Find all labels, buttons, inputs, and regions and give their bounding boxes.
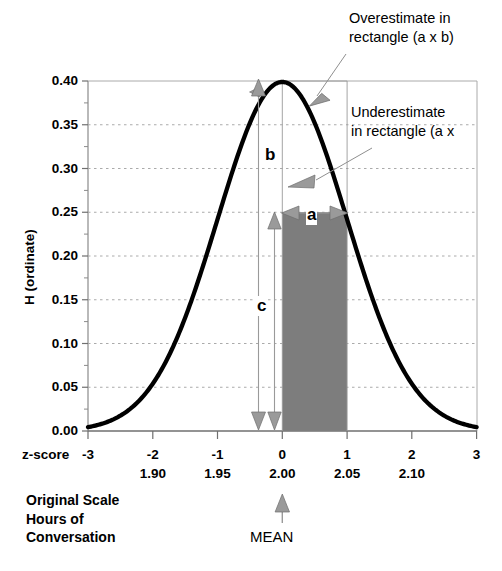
underestimate-callout-line1: Underestimate — [351, 103, 445, 122]
measure-label-b: b — [264, 145, 276, 165]
x-original-210: 2.10 — [388, 466, 436, 481]
measure-label-c: c — [256, 296, 267, 316]
x-tick-minus1: -1 — [198, 447, 238, 462]
y-tick-010: 0.10 — [34, 336, 78, 351]
measure-c — [268, 212, 281, 430]
x-original-200: 2.00 — [258, 466, 306, 481]
measure-b — [252, 79, 266, 430]
y-axis-ticks — [82, 81, 88, 431]
x-tick-minus3: -3 — [68, 447, 108, 462]
y-tick-040: 0.40 — [34, 73, 78, 88]
y-tick-005: 0.05 — [34, 379, 78, 394]
x-tick-0: 0 — [262, 447, 302, 462]
x-tick-1: 1 — [327, 447, 367, 462]
x-axis-caption-zscore: z-score — [22, 447, 69, 462]
x-axis-ticks — [88, 431, 477, 439]
measure-label-a: a — [306, 205, 317, 225]
y-tick-025: 0.25 — [34, 204, 78, 219]
overestimate-callout-line1: Overestimate in — [349, 9, 451, 28]
underestimate-callout-line2: in rectangle (a x — [351, 122, 454, 141]
x-original-195: 1.95 — [194, 466, 242, 481]
x-tick-minus2: -2 — [133, 447, 173, 462]
y-tick-030: 0.30 — [34, 161, 78, 176]
mean-arrow — [275, 494, 289, 523]
y-tick-035: 0.35 — [34, 117, 78, 132]
x-tick-2: 2 — [392, 447, 432, 462]
y-tick-020: 0.20 — [34, 248, 78, 263]
original-scale-line1: Original Scale — [26, 491, 119, 510]
y-tick-000: 0.00 — [34, 423, 78, 438]
x-tick-3: 3 — [457, 447, 497, 462]
shaded-rectangle — [282, 212, 347, 431]
original-scale-line3: Conversation — [26, 528, 115, 547]
x-original-205: 2.05 — [323, 466, 371, 481]
overestimate-callout-line2: rectangle (a x b) — [349, 28, 454, 47]
y-tick-015: 0.15 — [34, 292, 78, 307]
x-original-190: 1.90 — [129, 466, 177, 481]
original-scale-line2: Hours of — [26, 510, 84, 529]
mean-label: MEAN — [250, 528, 293, 545]
